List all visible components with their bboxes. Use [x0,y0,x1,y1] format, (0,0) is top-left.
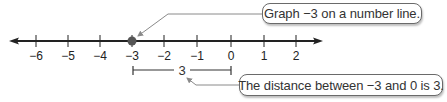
distance-label: 3 [178,63,185,78]
tick-label: −1 [190,49,204,63]
tick-label: 2 [293,49,300,63]
tick-label: −6 [29,49,43,63]
top-leader-line [138,14,262,36]
tick-marks: −6−5−4−3−2−1012 [29,35,300,63]
tick-label: −2 [157,49,171,63]
tick-label: −3 [125,49,139,63]
tick-label: 1 [261,49,268,63]
plotted-point [128,37,137,46]
tick-label: 0 [228,49,235,63]
callout-distance-explanation: The distance between −3 and 0 is 3. [239,74,443,96]
tick-label: −5 [61,49,75,63]
callout-graph-instruction: Graph −3 on a number line. [262,3,422,24]
number-line-axis [9,38,323,45]
bottom-leader-line [187,78,239,85]
distance-bracket: 3 [133,63,231,78]
tick-label: −4 [93,49,107,63]
